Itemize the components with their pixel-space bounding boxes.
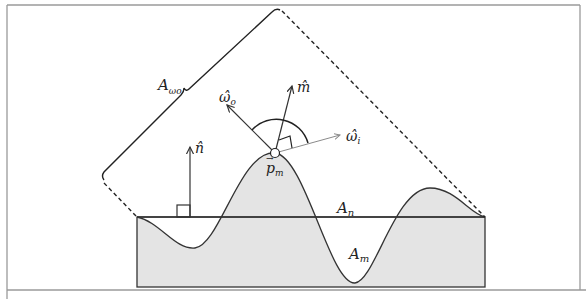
a-m-label: Am (347, 245, 369, 264)
macrosurface-box (137, 153, 485, 287)
a-n-label: An (335, 199, 354, 218)
projection-dashed-right (282, 11, 485, 217)
n-hat-label: n̂ (195, 140, 204, 156)
m-hat-label: m̂ (297, 79, 310, 95)
microfacet-diagram: n̂ m̂ ω̂o ω̂i pm → Aωo An (0, 0, 586, 299)
normal-vector-n (177, 147, 190, 217)
p-m-arrow: → (266, 153, 274, 163)
omega-i-label: ω̂i (346, 128, 360, 146)
omega-o-label: ω̂o (219, 89, 236, 107)
outgoing-direction-omega-o (227, 105, 275, 153)
projection-dashed-left (104, 183, 137, 217)
a-omega-o-label: Aωo (156, 76, 182, 96)
projected-area-brace (103, 9, 281, 180)
right-angle-marker (279, 136, 292, 148)
